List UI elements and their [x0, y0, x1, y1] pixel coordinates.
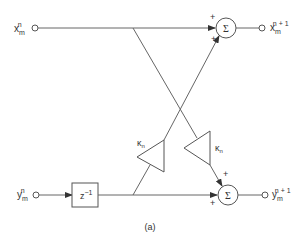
y-input-label: ymn [17, 187, 28, 202]
y-output-label: ymn + 1 [272, 187, 291, 202]
x-input-label: xmn [14, 21, 25, 36]
lattice-filter-diagram: xmn Σ + + xmn + 1 ymn z−1 Σ + + ymn + 1 … [0, 0, 307, 240]
x-cross-branch-upper [133, 28, 197, 138]
right-gain-label: κn [215, 143, 223, 154]
x-input-terminal [32, 25, 38, 31]
bottom-summer-plus-2: + [210, 198, 215, 208]
x-output-terminal [259, 25, 265, 31]
top-summer-plus-1: + [210, 12, 215, 22]
left-gain-label: κn [137, 138, 145, 149]
bottom-summer-sigma: Σ [225, 190, 231, 201]
figure-caption: (a) [145, 222, 156, 232]
right-gain-triangle [184, 131, 210, 165]
y-input-terminal [33, 192, 39, 198]
y-output-terminal [262, 192, 268, 198]
diagram-svg: xmn Σ + + xmn + 1 ymn z−1 Σ + + ymn + 1 … [0, 0, 307, 240]
y-cross-branch-lower [133, 165, 150, 195]
bottom-summer-plus-1: + [223, 169, 228, 179]
top-summer-sigma: Σ [223, 23, 229, 34]
x-output-label: xmn + 1 [270, 20, 289, 35]
y-cross-branch-upper [164, 36, 219, 140]
x-cross-branch-lower [210, 165, 222, 186]
